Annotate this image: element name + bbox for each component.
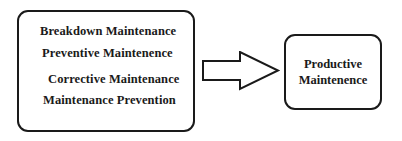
target-line-1: Productive — [304, 56, 362, 72]
source-box: Breakdown Maintenance Preventive Mainten… — [17, 10, 195, 132]
item-corrective-maintenance: Corrective Maintenance — [48, 72, 179, 87]
item-breakdown-maintenance: Breakdown Maintenance — [40, 24, 176, 39]
item-maintenance-prevention: Maintenance Prevention — [43, 93, 176, 108]
target-box: Productive Maintenence — [284, 34, 382, 110]
right-arrow-icon — [202, 51, 282, 91]
target-line-2: Maintenence — [299, 72, 368, 88]
item-preventive-maintenence: Preventive Maintenence — [42, 46, 173, 61]
